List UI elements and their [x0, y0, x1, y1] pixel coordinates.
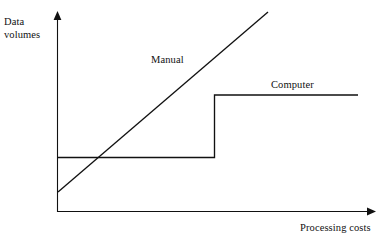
y-axis-title-line-2: volumes	[4, 29, 40, 40]
arrow-right-icon	[367, 208, 376, 216]
chart-figure: Datavolumes Manual Computer Processing c…	[0, 0, 389, 246]
chart-plot-area	[0, 0, 389, 246]
computer-series-label: Computer	[271, 79, 314, 92]
y-axis-title-line-1: Data	[4, 16, 24, 27]
arrow-up-icon	[54, 11, 62, 20]
computer-series-line	[58, 95, 358, 158]
x-axis-title: Processing costs	[300, 222, 371, 235]
manual-series-label: Manual	[151, 54, 184, 67]
manual-series-line	[58, 12, 268, 192]
y-axis-title: Datavolumes	[4, 16, 40, 41]
